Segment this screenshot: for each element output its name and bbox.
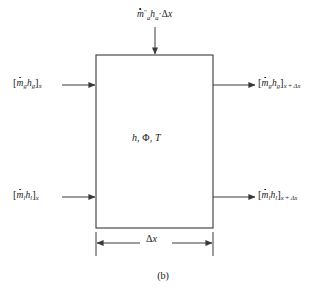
diagram-canvas <box>0 0 326 298</box>
gas-outlet-label: [mghg]x + Δx <box>258 78 300 90</box>
dimension-label: Δx <box>146 234 157 244</box>
source-flow-label: m′′aha·Δx <box>137 9 172 21</box>
mdot-symbol: m <box>17 79 24 89</box>
porosity-symbol: Φ <box>142 132 149 143</box>
figure-caption: (b) <box>0 270 326 281</box>
axis-symbol: x <box>153 233 158 244</box>
gas-inlet-label: [mghg]x <box>13 78 42 90</box>
position-subscript: x <box>36 194 39 201</box>
position-subscript: x <box>39 82 42 89</box>
axis-symbol: x <box>168 9 172 19</box>
mdot-symbol: m <box>262 79 269 89</box>
control-volume-state-label: h, Φ, T <box>132 133 161 143</box>
position-subscript-delta: Δx <box>291 194 298 201</box>
liquid-inlet-label: [mlhl]x <box>13 190 39 202</box>
liquid-outlet-label: [mlhl]x + Δx <box>258 190 297 202</box>
mdot-symbol: m <box>137 10 144 20</box>
temperature-symbol: T <box>155 132 161 143</box>
figure-control-volume: m′′aha·Δx [mghg]x [mghg]x + Δx [mlhl]x [… <box>0 0 326 298</box>
mdot-symbol: m <box>17 191 24 201</box>
position-subscript-delta: Δx <box>294 82 301 89</box>
position-subscript-plus: + <box>287 82 294 89</box>
position-subscript-plus: + <box>284 194 291 201</box>
mdot-symbol: m <box>262 191 269 201</box>
